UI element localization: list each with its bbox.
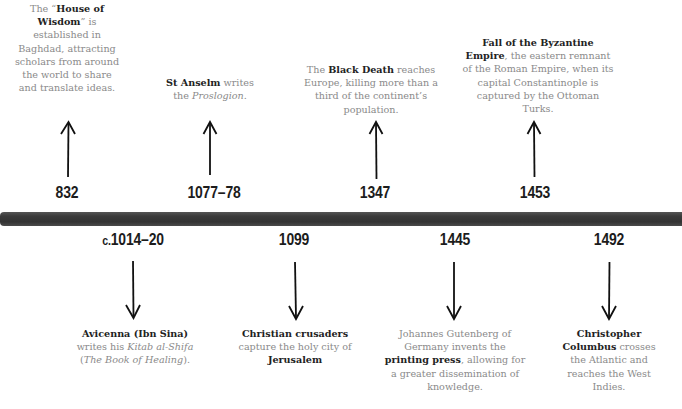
arrow-down-icon: [285, 261, 307, 321]
event-description: Christian crusaders capture the holy cit…: [230, 327, 360, 367]
arrow-down-icon: [122, 260, 144, 320]
arrow-down-icon: [598, 261, 620, 321]
arrow-up-icon: [524, 120, 544, 178]
event-date: 1492: [594, 230, 624, 250]
event-description: Johannes Gutenberg of Germany invents th…: [382, 327, 528, 393]
arrow-down-icon: [443, 261, 465, 321]
arrow-up-icon: [366, 120, 386, 180]
event-description: Christopher Columbus crosses the Atlanti…: [556, 327, 662, 393]
timeline-bar: [0, 212, 682, 226]
event-description: The “House of Wisdom” is established in …: [12, 2, 122, 94]
arrow-up-icon: [58, 120, 78, 178]
event-description: The Black Death reaches Europe, killing …: [300, 63, 442, 116]
event-description: St Anselm writes the Proslogion.: [160, 76, 260, 102]
event-date: 1445: [440, 230, 470, 250]
event-description: Fall of the Byzantine Empire, the easter…: [460, 36, 616, 115]
event-date: 1099: [279, 230, 309, 250]
event-date: c.1014–20: [102, 230, 164, 250]
arrow-up-icon: [200, 120, 220, 176]
event-date: 1077–78: [187, 183, 240, 203]
event-description: Avicenna (Ibn Sina) writes his Kitab al-…: [70, 327, 200, 367]
event-date: 1347: [360, 183, 390, 203]
event-date: 832: [56, 183, 79, 203]
event-date: 1453: [520, 183, 550, 203]
